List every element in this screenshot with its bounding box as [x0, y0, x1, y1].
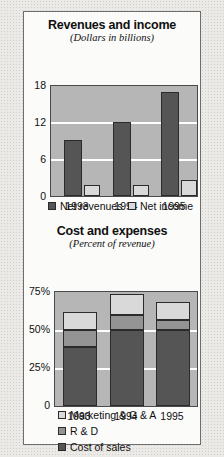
- plot-revenues: [50, 85, 198, 197]
- stack-1993: [63, 312, 97, 406]
- chart-cost-and-expenses: Cost and expenses (Percent of revenue) 7…: [24, 224, 200, 446]
- figure-panel: Revenues and income (Dollars in billions…: [23, 11, 201, 445]
- legend-label-net-income: Net income: [140, 200, 193, 212]
- legend-swatch-net-income: [128, 202, 136, 210]
- chart-subtitle-revenues: (Dollars in billions): [24, 32, 200, 43]
- plot-cost: [54, 291, 198, 407]
- segment-cost-of-sales-1993: [63, 347, 97, 406]
- legend-label-marketing: Marketing & G & A: [70, 409, 156, 421]
- ytick-revenues-6: 6: [24, 153, 46, 165]
- xtick-cost-1995: 1995: [150, 410, 194, 422]
- chart-title-revenues: Revenues and income: [24, 18, 200, 32]
- ytick-cost-0: 0: [24, 399, 50, 411]
- bar-net-income-1995: [181, 180, 197, 196]
- plot-area-cost: 75% 50% 25% 0: [24, 249, 200, 389]
- legend-item-net-revenues[interactable]: Net revenues: [48, 200, 122, 212]
- ytick-revenues-0: 0: [24, 190, 46, 202]
- segment-r-and-d-1993: [63, 330, 97, 347]
- segment-cost-of-sales-1994: [110, 330, 144, 406]
- segment-marketing-1994: [110, 294, 144, 315]
- legend-item-cost-of-sales[interactable]: Cost of sales: [58, 441, 131, 453]
- chart-revenues-and-income: Revenues and income (Dollars in billions…: [24, 18, 200, 218]
- legend-label-cost-of-sales: Cost of sales: [70, 441, 131, 453]
- plot-area-revenues: 18 12 6 0 1993 1994 1995: [24, 43, 200, 173]
- bar-net-revenues-1994: [113, 122, 131, 196]
- bar-net-income-1994: [133, 185, 149, 196]
- legend-label-net-revenues: Net revenues: [60, 200, 122, 212]
- legend-item-r-and-d[interactable]: R & D: [58, 425, 98, 437]
- segment-marketing-1995: [156, 302, 190, 320]
- bar-net-income-1993: [84, 185, 100, 196]
- chart-subtitle-cost: (Percent of revenue): [24, 238, 200, 249]
- segment-marketing-1993: [63, 312, 97, 330]
- ytick-cost-50: 50%: [24, 323, 50, 335]
- stack-1995: [156, 302, 190, 406]
- legend-swatch-net-revenues: [48, 202, 56, 210]
- legend-swatch-cost-of-sales: [58, 443, 66, 451]
- ytick-revenues-12: 12: [24, 116, 46, 128]
- bar-net-revenues-1995: [161, 92, 179, 196]
- ytick-cost-75: 75%: [24, 285, 50, 297]
- bar-net-revenues-1993: [64, 140, 82, 196]
- segment-cost-of-sales-1995: [156, 330, 190, 406]
- legend-swatch-marketing: [58, 411, 66, 419]
- segment-r-and-d-1994: [110, 315, 144, 330]
- ytick-revenues-18: 18: [24, 79, 46, 91]
- segment-r-and-d-1995: [156, 320, 190, 330]
- legend-item-marketing[interactable]: Marketing & G & A: [58, 409, 156, 421]
- legend-item-net-income[interactable]: Net income: [128, 200, 193, 212]
- ytick-cost-25: 25%: [24, 361, 50, 373]
- legend-label-r-and-d: R & D: [70, 425, 98, 437]
- legend-swatch-r-and-d: [58, 427, 66, 435]
- stack-1994: [110, 294, 144, 406]
- chart-title-cost: Cost and expenses: [24, 224, 200, 238]
